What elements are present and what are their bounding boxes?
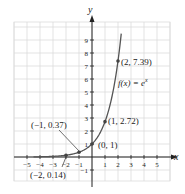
label-point-2: (2, 7.39) [121, 57, 152, 67]
x-tick-label: 1 [103, 161, 107, 169]
y-tick-label: 8 [85, 50, 89, 58]
data-point [103, 120, 107, 124]
label-point-1: (1, 2.72) [108, 116, 139, 126]
x-tick-label: 4 [142, 161, 146, 169]
exponential-graph: −5−4−3−2−112345−1123456789 y x (2, 7.39)… [0, 0, 185, 194]
label-point-0: (0, 1) [98, 140, 118, 150]
curve-exp [34, 34, 122, 157]
y-tick-label: 2 [85, 128, 89, 136]
data-point [64, 153, 68, 157]
function-label: f(x) = ex [118, 77, 148, 88]
y-tick-label: 5 [85, 89, 89, 97]
label-point-neg2: (−2, 0.14) [30, 170, 66, 180]
data-point [90, 142, 94, 146]
x-tick-label: 3 [129, 161, 133, 169]
x-tick-label: 2 [116, 161, 120, 169]
x-tick-label: −3 [49, 161, 57, 169]
x-tick-label: −5 [23, 161, 31, 169]
x-tick-label: −2 [62, 161, 70, 169]
function-exponent: x [144, 77, 148, 83]
x-axis-label: x [173, 151, 179, 162]
y-tick-label: 4 [85, 102, 89, 110]
y-tick-label: 9 [85, 37, 89, 45]
leader-neg1 [59, 130, 79, 151]
x-tick-label: −4 [36, 161, 44, 169]
y-axis-label: y [87, 4, 93, 15]
y-tick-label: 3 [85, 115, 89, 123]
label-point-neg1: (−1, 0.37) [31, 120, 67, 130]
data-point [116, 59, 120, 63]
x-tick-label: 5 [155, 161, 159, 169]
y-tick-label: −1 [81, 167, 89, 175]
y-tick-label: 6 [85, 76, 89, 84]
y-tick-label: 7 [85, 63, 89, 71]
